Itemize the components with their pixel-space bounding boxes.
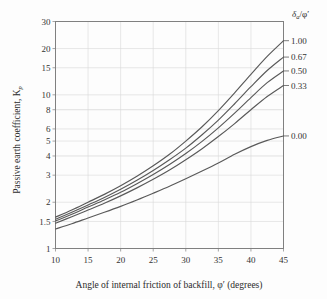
legend-entry-0-67: 0.67 xyxy=(291,52,307,62)
x-tick-label: 10 xyxy=(51,255,61,265)
y-tick-label: 2 xyxy=(46,197,51,207)
y-tick-label: 30 xyxy=(42,17,52,27)
y-tick-label: 15 xyxy=(42,63,52,73)
x-tick-label: 20 xyxy=(116,255,126,265)
y-axis-title: Passive earth coefficient, Kp xyxy=(12,85,23,193)
y-tick-label: 4 xyxy=(46,151,51,161)
legend-entry-0-50: 0.50 xyxy=(291,66,307,76)
passive-earth-coefficient-chart: 11.523456810152030 1015202530354045 δa/φ… xyxy=(0,0,327,299)
svg-text:Passive earth coefficient, Kp: Passive earth coefficient, Kp xyxy=(12,85,23,193)
x-axis-title: Angle of internal friction of backfill, … xyxy=(76,280,263,291)
legend-entry-1-00: 1.00 xyxy=(291,36,307,46)
legend-title: δa/φ′ xyxy=(292,9,309,20)
x-tick-label: 25 xyxy=(149,255,159,265)
y-tick-label: 1.5 xyxy=(39,217,51,227)
legend-entry-0-00: 0.00 xyxy=(291,131,307,141)
y-tick-label: 8 xyxy=(46,105,51,115)
y-tick-label: 20 xyxy=(42,44,52,54)
x-tick-label: 35 xyxy=(214,255,224,265)
x-tick-label: 45 xyxy=(279,255,289,265)
y-tick-label: 10 xyxy=(42,90,52,100)
y-tick-label: 1 xyxy=(46,244,51,254)
chart-figure: 11.523456810152030 1015202530354045 δa/φ… xyxy=(0,0,327,299)
y-tick-label: 5 xyxy=(46,136,51,146)
x-tick-label: 40 xyxy=(246,255,256,265)
legend-entry-0-33: 0.33 xyxy=(291,81,307,91)
x-tick-label: 30 xyxy=(181,255,191,265)
y-tick-label: 3 xyxy=(46,170,51,180)
svg-text:Angle of internal friction of: Angle of internal friction of backfill, … xyxy=(76,280,263,291)
x-tick-label: 15 xyxy=(84,255,94,265)
y-tick-label: 6 xyxy=(46,124,51,134)
